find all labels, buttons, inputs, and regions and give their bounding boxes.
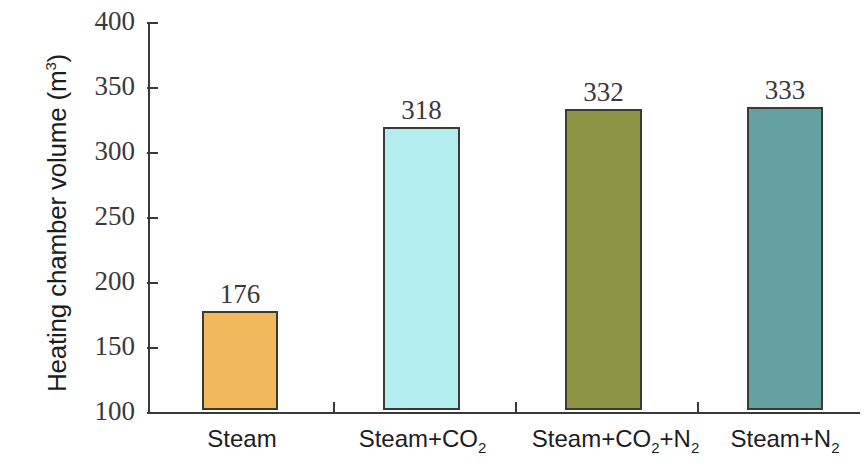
y-axis-title-superscript: 3	[42, 62, 59, 70]
y-axis-title-tail: )	[42, 54, 72, 62]
y-axis-tick-label-250: 250	[69, 203, 135, 230]
x-axis-tick-3	[697, 402, 699, 414]
bar-value-steam-co2-n2: 332	[583, 78, 624, 106]
bar-steam-n2[interactable]: 333	[747, 107, 823, 410]
bar-steam-co2-n2[interactable]: 332	[565, 109, 642, 410]
y-axis-tick-label-400: 400	[69, 8, 135, 35]
plot-area: 400 350 300 250 200 150 100 176 318	[148, 22, 860, 412]
y-axis-tick-label-300: 300	[69, 138, 135, 165]
y-axis-title-text: Heating chamber volume (m	[42, 71, 72, 393]
x-axis-label-steam-co2-n2-sub: 2	[651, 439, 659, 456]
y-axis-tick-label-350: 350	[69, 73, 135, 100]
x-axis-tick-2	[515, 402, 517, 414]
bar-value-steam-co2: 318	[401, 96, 442, 124]
y-axis-tick-250: 250	[147, 217, 158, 219]
y-axis-tick-label-200: 200	[69, 268, 135, 295]
y-axis-tick-350: 350	[147, 87, 158, 89]
y-axis-tick-300: 300	[147, 152, 158, 154]
y-axis-tick-150: 150	[147, 347, 158, 349]
x-axis-line	[148, 412, 860, 414]
bar-chart: Heating chamber volume (m3) 400 350 300 …	[0, 0, 867, 470]
y-axis-tick-label-150: 150	[69, 333, 135, 360]
x-axis-label-steam-co2-text: Steam+CO	[359, 425, 478, 452]
x-axis-label-steam-n2-sub: 2	[831, 439, 839, 456]
y-axis-tick-label-100: 100	[69, 398, 135, 425]
y-axis-tick-400: 400	[147, 22, 158, 24]
x-axis-label-steam: Steam	[142, 424, 342, 454]
x-axis-label-steam-co2-n2-text2: +N	[660, 425, 691, 452]
y-axis-tick-100: 100	[147, 412, 158, 414]
bar-value-steam: 176	[220, 280, 261, 308]
bar-steam-co2[interactable]: 318	[383, 127, 460, 410]
bar-steam[interactable]: 176	[202, 311, 278, 410]
x-axis-label-steam-n2-text: Steam+N	[730, 425, 831, 452]
x-axis-label-steam-text: Steam	[207, 425, 276, 452]
x-axis-label-steam-co2-n2-text: Steam+CO	[532, 425, 651, 452]
y-axis-tick-200: 200	[147, 282, 158, 284]
x-axis-label-steam-n2: Steam+N2	[690, 424, 867, 454]
bar-value-steam-n2: 333	[765, 76, 806, 104]
x-axis-tick-1	[333, 402, 335, 414]
